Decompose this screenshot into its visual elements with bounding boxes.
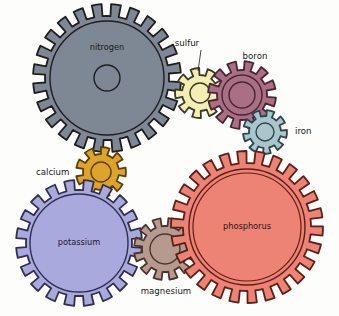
gear-body-nitrogen[interactable] (33, 4, 181, 152)
gear-label-boron: boron (243, 51, 268, 61)
gear-label-calcium: calcium (36, 167, 69, 177)
gear-train-svg: nitrogensulfurboronironcalciumpotassiumm… (0, 0, 339, 316)
gear-label-sulfur: sulfur (175, 38, 200, 48)
gear-diagram-canvas: nitrogensulfurboronironcalciumpotassiumm… (0, 0, 339, 316)
gear-label-potassium: potassium (58, 237, 100, 247)
gear-label-phosphorus: phosphorus (223, 221, 271, 231)
gear-label-nitrogen: nitrogen (90, 42, 124, 52)
gear-label-iron: iron (295, 126, 311, 136)
gear-label-magnesium: magnesium (141, 286, 192, 296)
gear-nitrogen[interactable] (33, 4, 181, 152)
